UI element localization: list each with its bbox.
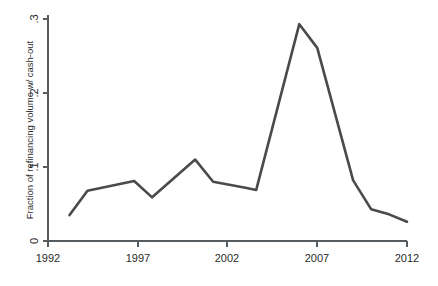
data-series-line <box>70 24 407 222</box>
y-axis-label: Fraction of refinancing volume w/ cash-o… <box>24 40 35 219</box>
y-tick-label-1: .1 <box>28 162 40 171</box>
x-tick-label-2002: 2002 <box>215 252 239 264</box>
y-tick-label-0: 0 <box>28 238 40 244</box>
y-axis-ticks <box>43 19 48 241</box>
x-tick-label-1997: 1997 <box>126 252 150 264</box>
x-tick-label-1992: 1992 <box>36 252 60 264</box>
line-chart: Fraction of refinancing volume w/ cash-o… <box>0 0 438 286</box>
x-tick-label-2012: 2012 <box>395 252 419 264</box>
chart-container: Fraction of refinancing volume w/ cash-o… <box>0 0 438 286</box>
x-tick-label-2007: 2007 <box>305 252 329 264</box>
x-axis-ticks <box>48 241 407 247</box>
y-tick-label-2: .2 <box>28 88 40 97</box>
y-tick-label-3: .3 <box>28 14 40 23</box>
